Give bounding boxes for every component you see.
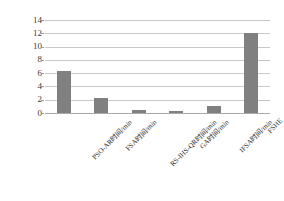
y-tick-label: 14 bbox=[16, 16, 42, 25]
y-tick-mark bbox=[41, 47, 44, 48]
bar bbox=[94, 98, 108, 113]
y-tick-label: 0 bbox=[16, 109, 42, 118]
y-tick-mark bbox=[41, 60, 44, 61]
bar-chart: 02468101214 PSO-AR时间/minFSA时间/minRS-IHS-… bbox=[0, 0, 284, 201]
y-tick-label: 8 bbox=[16, 55, 42, 64]
x-tick-label: IFSA时间/min bbox=[236, 117, 273, 154]
y-tick-mark bbox=[41, 20, 44, 21]
y-tick-mark bbox=[41, 113, 44, 114]
y-tick-label: 10 bbox=[16, 42, 42, 51]
bar bbox=[244, 33, 258, 113]
plot-area bbox=[45, 20, 270, 113]
y-tick-mark bbox=[41, 73, 44, 74]
x-tick-label: PSO-AR时间/min bbox=[89, 117, 133, 161]
y-tick-mark bbox=[41, 100, 44, 101]
y-tick-label: 12 bbox=[16, 29, 42, 38]
y-tick-label: 2 bbox=[16, 95, 42, 104]
bars bbox=[45, 20, 270, 113]
bar bbox=[57, 71, 71, 114]
y-tick-label: 4 bbox=[16, 82, 42, 91]
y-tick-mark bbox=[41, 33, 44, 34]
y-axis: 02468101214 bbox=[12, 20, 42, 113]
y-tick-mark bbox=[41, 86, 44, 87]
x-axis-labels: PSO-AR时间/minFSA时间/minRS-IHS-QR时间/minGA时间… bbox=[45, 113, 270, 201]
y-tick-label: 6 bbox=[16, 69, 42, 78]
bar bbox=[207, 106, 221, 113]
